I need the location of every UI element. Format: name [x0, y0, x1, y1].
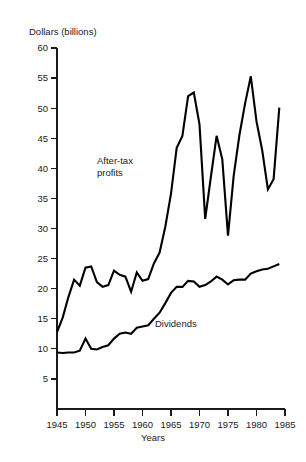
y-tick-label: 25	[37, 253, 48, 264]
y-axis-ticks: 51015202530354045505560	[37, 42, 57, 384]
series-line-after-tax-profits	[57, 76, 279, 332]
y-tick-label: 15	[37, 313, 48, 324]
series-line-dividends	[57, 264, 279, 353]
series-label-after-tax-profits: After-tax profits	[97, 155, 133, 178]
x-tick-label: 1945	[46, 419, 67, 430]
x-tick-label: 1950	[75, 419, 96, 430]
y-tick-label: 35	[37, 193, 48, 204]
y-tick-label: 30	[37, 223, 48, 234]
y-tick-label: 50	[37, 103, 48, 114]
x-tick-label: 1970	[189, 419, 210, 430]
y-tick-label: 55	[37, 72, 48, 83]
series-label-after-tax-profits-line1: After-tax	[97, 155, 133, 167]
y-tick-label: 5	[43, 373, 48, 384]
y-tick-label: 60	[37, 42, 48, 53]
chart-container: Dollars (billions) 510152025303540455055…	[0, 0, 306, 462]
x-axis-ticks: 194519501955196019651970197519801985	[46, 409, 295, 430]
series-label-dividends: Dividends	[155, 318, 197, 330]
x-tick-label: 1980	[246, 419, 267, 430]
x-axis-title: Years	[0, 432, 306, 443]
x-tick-label: 1960	[132, 419, 153, 430]
axes	[57, 48, 285, 409]
x-tick-label: 1955	[103, 419, 124, 430]
x-tick-label: 1965	[160, 419, 181, 430]
y-tick-label: 40	[37, 163, 48, 174]
y-tick-label: 20	[37, 283, 48, 294]
line-chart-plot: 51015202530354045505560 1945195019551960…	[0, 0, 306, 462]
data-series	[57, 76, 279, 353]
y-tick-label: 45	[37, 133, 48, 144]
y-tick-label: 10	[37, 343, 48, 354]
series-label-after-tax-profits-line2: profits	[97, 167, 133, 179]
x-tick-label: 1975	[217, 419, 238, 430]
x-tick-label: 1985	[274, 419, 295, 430]
